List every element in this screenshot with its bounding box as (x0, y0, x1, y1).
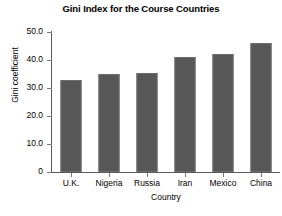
bar-slot (242, 32, 280, 172)
y-tick-label: 0 (38, 166, 43, 176)
bar[interactable] (251, 43, 272, 172)
x-tick-label: Iran (166, 178, 204, 188)
y-tick: 10.0 (0, 144, 52, 145)
x-tick-label: Russia (128, 178, 166, 188)
bar-slot (52, 32, 90, 172)
y-tick: 30.0 (0, 88, 52, 89)
y-tick: 40.0 (0, 60, 52, 61)
x-tick-mark (109, 173, 110, 177)
bar-slot (204, 32, 242, 172)
x-tick-mark (261, 173, 262, 177)
x-axis-title: Country (52, 192, 280, 202)
y-tick-label: 50.0 (26, 26, 43, 36)
x-tick-mark (185, 173, 186, 177)
bar[interactable] (213, 54, 234, 172)
y-tick-label: 10.0 (26, 138, 43, 148)
bar[interactable] (137, 73, 158, 172)
x-tick-label: Mexico (204, 178, 242, 188)
x-tick-label: China (242, 178, 280, 188)
plot-area (52, 32, 280, 172)
bar[interactable] (99, 74, 120, 172)
x-tick-mark (71, 173, 72, 177)
y-tick: 0 (0, 172, 52, 173)
bar-slot (90, 32, 128, 172)
x-axis-line (51, 172, 280, 173)
y-axis-title: Gini coefficient (10, 15, 20, 135)
y-tick-label: 40.0 (26, 54, 43, 64)
bar[interactable] (175, 57, 196, 172)
y-tick: 20.0 (0, 116, 52, 117)
bar-slot (166, 32, 204, 172)
y-tick: 50.0 (0, 32, 52, 33)
chart-title: Gini Index for the Course Countries (0, 3, 282, 14)
bar-slot (128, 32, 166, 172)
x-tick-label: U.K. (52, 178, 90, 188)
x-tick-label: Nigeria (90, 178, 128, 188)
x-tick-mark (223, 173, 224, 177)
bar[interactable] (61, 80, 82, 172)
y-tick-label: 30.0 (26, 82, 43, 92)
x-tick-mark (147, 173, 148, 177)
y-tick-mark (47, 172, 52, 173)
bar-chart: Gini Index for the Course Countries Gini… (0, 0, 282, 216)
y-tick-label: 20.0 (26, 110, 43, 120)
